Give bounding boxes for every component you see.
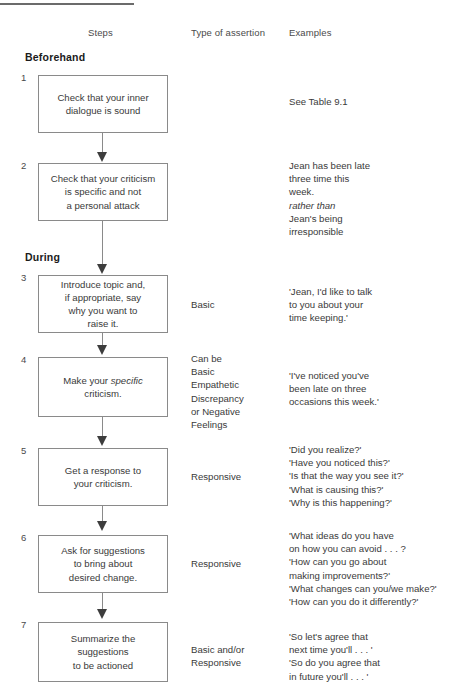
step-box-4-line-2: criticism.: [84, 388, 121, 399]
step-box-4: Make your specific criticism.: [38, 357, 168, 417]
step-number-3: 3: [21, 272, 35, 283]
assertion-4-line-1: Can be: [191, 352, 286, 365]
example-5-line-5: 'Why is this happening?': [289, 496, 457, 509]
arrowhead-2-3: [97, 264, 107, 274]
assertion-3-line-1: Basic: [191, 298, 286, 311]
assertion-7-line-1: Basic and/or: [191, 643, 286, 656]
example-5-line-3: 'Is that the way you see it?': [289, 469, 457, 482]
column-header-type-of-assertion: Type of assertion: [191, 27, 265, 38]
assertion-4-line-5: or Negative: [191, 405, 286, 418]
example-6-line-4: making improvements?': [289, 569, 457, 582]
example-7: 'So let's agree that next time you'll . …: [289, 630, 457, 683]
example-2-line-2: three time this: [289, 172, 457, 185]
step-box-4-italic-word: specific: [111, 375, 143, 386]
column-header-examples: Examples: [289, 27, 332, 38]
example-3-line-2: to you about your: [289, 298, 457, 311]
step-number-4: 4: [21, 354, 35, 365]
example-6-line-6: 'How can you do it differently?': [289, 595, 457, 608]
phase-heading-during: During: [25, 251, 60, 263]
arrowhead-5-6: [97, 521, 107, 531]
assertion-7-line-2: Responsive: [191, 656, 286, 669]
step-number-1: 1: [21, 72, 35, 83]
step-box-7: Summarize the suggestions to be actioned: [38, 622, 168, 682]
step-box-6-line-3: desired change.: [69, 572, 137, 583]
assertion-3: Basic: [191, 298, 286, 311]
example-4: 'I've noticed you've been late on three …: [289, 369, 457, 409]
step-box-1-line-2: dialogue is sound: [66, 105, 141, 116]
example-2-line-4-italic: rather than: [289, 200, 335, 211]
step-box-5: Get a response to your criticism.: [38, 448, 168, 506]
step-box-2: Check that your criticism is specific an…: [38, 163, 168, 221]
step-box-6-line-1: Ask for suggestions: [61, 545, 145, 556]
example-6-line-3: 'How can you go about: [289, 555, 457, 568]
step-box-3-line-2: if appropriate, say: [65, 292, 141, 303]
example-3: 'Jean, I'd like to talk to you about you…: [289, 285, 457, 325]
example-3-line-1: 'Jean, I'd like to talk: [289, 285, 457, 298]
example-7-line-2: next time you'll . . . ': [289, 643, 457, 656]
step-box-4-line-1: Make your specific: [63, 375, 142, 386]
assertion-4-line-2: Basic: [191, 365, 286, 378]
example-4-line-1: 'I've noticed you've: [289, 369, 457, 382]
step-box-3-line-1: Introduce topic and,: [61, 279, 145, 290]
connector-2-3: [102, 221, 103, 267]
step-box-1: Check that your inner dialogue is sound: [38, 75, 168, 133]
step-box-7-line-1: Summarize the: [71, 633, 136, 644]
step-box-3-text: Introduce topic and, if appropriate, say…: [55, 278, 151, 331]
example-4-line-3: occasions this week.': [289, 395, 457, 408]
example-5-line-2: 'Have you noticed this?': [289, 456, 457, 469]
step-box-2-text: Check that your criticism is specific an…: [45, 172, 162, 212]
step-box-1-line-1: Check that your inner: [57, 92, 148, 103]
assertion-6-line-1: Responsive: [191, 557, 286, 570]
example-4-line-2: been late on three: [289, 382, 457, 395]
assertion-5: Responsive: [191, 470, 286, 483]
step-box-5-text: Get a response to your criticism.: [59, 464, 147, 490]
example-6-line-2: on how you can avoid . . . ?: [289, 542, 457, 555]
flowchart-figure: Steps Type of assertion Examples Beforeh…: [0, 0, 459, 699]
example-5-line-4: 'What is causing this?': [289, 483, 457, 496]
step-box-6-line-2: to bring about: [74, 558, 133, 569]
connector-6-7: [102, 593, 103, 610]
example-2-line-6: irresponsible: [289, 225, 457, 238]
example-2-line-1: Jean has been late: [289, 159, 457, 172]
step-box-4-text: Make your specific criticism.: [57, 374, 148, 400]
example-3-line-3: time keeping.': [289, 311, 457, 324]
column-header-steps: Steps: [88, 27, 113, 38]
example-7-line-1: 'So let's agree that: [289, 630, 457, 643]
step-box-3: Introduce topic and, if appropriate, say…: [38, 275, 168, 333]
example-6-line-1: 'What ideas do you have: [289, 529, 457, 542]
step-box-5-line-2: your criticism.: [74, 478, 133, 489]
step-box-6: Ask for suggestions to bring about desir…: [38, 535, 168, 593]
step-box-2-line-2: is specific and not: [65, 186, 141, 197]
arrowhead-1-2: [97, 152, 107, 162]
step-box-3-line-4: raise it.: [88, 318, 119, 329]
connector-5-6: [102, 506, 103, 522]
assertion-4-line-3: Empathetic: [191, 378, 286, 391]
step-box-3-line-3: why you want to: [69, 305, 138, 316]
example-5: 'Did you realize?' 'Have you noticed thi…: [289, 443, 457, 509]
assertion-4: Can be Basic Empathetic Discrepancy or N…: [191, 352, 286, 431]
example-1: See Table 9.1: [289, 95, 457, 108]
assertion-4-line-4: Discrepancy: [191, 392, 286, 405]
step-box-1-text: Check that your inner dialogue is sound: [51, 91, 154, 117]
step-box-2-line-3: a personal attack: [66, 200, 139, 211]
step-number-7: 7: [21, 619, 35, 630]
example-2-line-5: Jean's being: [289, 212, 457, 225]
connector-1-2: [102, 133, 103, 153]
arrowhead-6-7: [97, 609, 107, 619]
example-6-line-5: 'What changes can you/we make?': [289, 582, 457, 595]
example-7-line-3: 'So do you agree that: [289, 656, 457, 669]
step-number-2: 2: [21, 160, 35, 171]
arrowhead-4-5: [97, 436, 107, 446]
step-number-5: 5: [21, 445, 35, 456]
assertion-6: Responsive: [191, 557, 286, 570]
step-box-7-text: Summarize the suggestions to be actioned: [65, 632, 142, 672]
step-box-6-text: Ask for suggestions to bring about desir…: [55, 544, 151, 584]
assertion-5-line-1: Responsive: [191, 470, 286, 483]
example-1-line-1: See Table 9.1: [289, 95, 457, 108]
assertion-4-line-6: Feelings: [191, 418, 286, 431]
step-box-7-line-3: to be actioned: [73, 660, 133, 671]
step-box-7-line-2: suggestions: [77, 646, 128, 657]
step-box-5-line-1: Get a response to: [65, 465, 141, 476]
assertion-7: Basic and/or Responsive: [191, 643, 286, 669]
example-6: 'What ideas do you have on how you can a…: [289, 529, 457, 608]
